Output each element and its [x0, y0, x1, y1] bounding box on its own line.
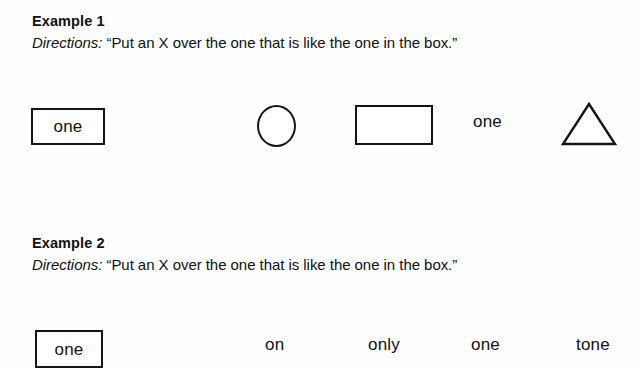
option-word-one[interactable]: one: [471, 336, 500, 354]
example-1-directions: Directions: “Put an X over the one that …: [32, 33, 457, 53]
worksheet-page: Example 1 Directions: “Put an X over the…: [0, 0, 639, 368]
directions-label: Directions:: [32, 34, 102, 51]
stimulus-word: one: [54, 118, 83, 135]
option-word-only[interactable]: only: [368, 336, 400, 354]
stimulus-box: one: [35, 330, 103, 368]
example-1-answer-row: one one: [0, 92, 639, 162]
stimulus-word: one: [55, 341, 84, 358]
directions-text: “Put an X over the one that is like the …: [106, 34, 457, 51]
stimulus-box: one: [31, 108, 105, 145]
option-word-on[interactable]: on: [265, 336, 284, 354]
rectangle-icon[interactable]: [355, 105, 433, 145]
directions-label: Directions:: [32, 256, 102, 273]
option-word-one[interactable]: one: [473, 113, 502, 131]
example-2-answer-row: one on only one tone: [0, 314, 639, 368]
directions-text: “Put an X over the one that is like the …: [106, 256, 457, 273]
example-1-title: Example 1: [32, 12, 105, 30]
example-2-title: Example 2: [32, 234, 105, 252]
example-2-directions: Directions: “Put an X over the one that …: [32, 255, 457, 275]
triangle-icon[interactable]: [560, 101, 618, 147]
option-word-tone[interactable]: tone: [576, 336, 610, 354]
circle-icon[interactable]: [257, 105, 296, 147]
